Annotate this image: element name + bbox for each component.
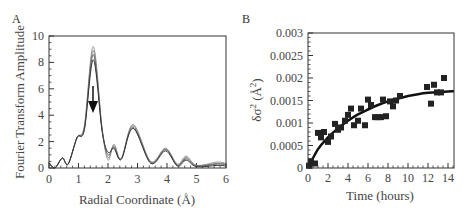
y-tick-label: 0 xyxy=(297,161,303,175)
x-tick-label: 0 xyxy=(46,172,52,186)
data-point xyxy=(390,103,396,109)
spectrum-curve xyxy=(49,51,226,169)
y-tick-label: 0.002 xyxy=(276,71,303,85)
data-point xyxy=(328,134,334,140)
data-point xyxy=(358,106,364,112)
panel-a-y-axis-title: Fourier Transform Amplitude xyxy=(12,25,27,179)
data-point xyxy=(428,101,434,107)
y-tick-label: 8 xyxy=(38,55,44,69)
data-point xyxy=(355,118,361,124)
y-tick-label: 0.0025 xyxy=(270,49,303,63)
y-tick-label: 0 xyxy=(38,161,44,175)
x-tick-label: 6 xyxy=(223,172,229,186)
y-tick-label: 10 xyxy=(32,29,44,43)
panel-b-label: B xyxy=(242,12,250,26)
y-tick-label: 0.001 xyxy=(276,116,303,130)
data-point xyxy=(380,97,386,103)
y-tick-label: 6 xyxy=(38,82,44,96)
data-point xyxy=(431,82,437,88)
x-tick-label: 6 xyxy=(365,171,371,185)
y-tick-label: 0.003 xyxy=(276,26,303,40)
x-tick-label: 1 xyxy=(76,172,82,186)
panel-b: B δσ2 (Å2) Time (hours) 0246810121400.00… xyxy=(242,12,458,203)
data-point xyxy=(362,122,368,128)
panel-a-frame xyxy=(49,36,226,168)
figure: A Fourier Transform Amplitude Radial Coo… xyxy=(0,0,466,216)
data-point xyxy=(321,129,327,135)
panel-b-axes: 0246810121400.00050.0010.00150.0020.0025… xyxy=(270,26,454,185)
y-tick-label: 4 xyxy=(38,108,44,122)
y-tick-label: 0.0015 xyxy=(270,94,303,108)
x-tick-label: 14 xyxy=(442,171,454,185)
panel-a: A Fourier Transform Amplitude Radial Coo… xyxy=(12,12,229,207)
panel-a-label: A xyxy=(12,12,21,26)
data-point xyxy=(342,118,348,124)
panel-a-axes: 01234560246810 xyxy=(32,29,229,186)
data-point xyxy=(348,106,354,112)
data-point xyxy=(365,97,371,103)
data-point xyxy=(441,75,447,81)
panel-a-curves xyxy=(49,47,226,169)
x-tick-label: 3 xyxy=(135,172,141,186)
x-tick-label: 2 xyxy=(105,172,111,186)
x-tick-label: 4 xyxy=(345,171,351,185)
x-tick-label: 8 xyxy=(385,171,391,185)
x-tick-label: 4 xyxy=(164,172,170,186)
spectrum-curve xyxy=(49,60,226,168)
y-tick-label: 2 xyxy=(38,135,44,149)
data-point xyxy=(338,125,344,131)
x-tick-label: 12 xyxy=(422,171,434,185)
x-tick-label: 5 xyxy=(194,172,200,186)
data-point xyxy=(424,84,430,90)
data-point xyxy=(332,121,338,127)
data-point xyxy=(368,102,374,108)
spectrum-curve xyxy=(49,47,226,169)
data-point xyxy=(345,112,351,118)
data-point xyxy=(383,113,389,119)
data-point xyxy=(325,139,331,145)
data-point xyxy=(318,134,324,140)
data-point xyxy=(438,89,444,95)
panel-b-x-axis-title: Time (hours) xyxy=(346,188,414,203)
x-tick-label: 10 xyxy=(402,171,414,185)
spectrum-curve xyxy=(49,54,226,168)
data-point xyxy=(312,161,318,167)
data-point xyxy=(397,93,403,99)
panel-b-y-axis-title: δσ2 (Å2) xyxy=(248,78,264,121)
x-tick-label: 2 xyxy=(325,171,331,185)
x-tick-label: 0 xyxy=(305,171,311,185)
panel-a-x-axis-title: Radial Coordinate (Å) xyxy=(79,192,195,207)
panel-b-data-points xyxy=(306,75,447,169)
y-tick-label: 0.0005 xyxy=(270,139,303,153)
arrow-down-icon xyxy=(88,86,98,113)
